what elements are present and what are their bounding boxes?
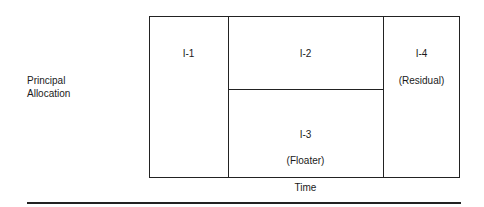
tranche-i3-note: (Floater) bbox=[228, 155, 383, 167]
x-axis-label: Time bbox=[228, 182, 383, 193]
allocation-box bbox=[149, 16, 460, 178]
divider-i2-i3 bbox=[228, 89, 384, 90]
tranche-i4-label: I-4 bbox=[383, 48, 460, 60]
y-axis-label-line-2: Allocation bbox=[27, 87, 70, 100]
tranche-i2-label: I-2 bbox=[228, 48, 383, 60]
divider-i2i3-i4 bbox=[383, 16, 384, 178]
divider-i1-i2 bbox=[228, 16, 229, 178]
y-axis-label: Principal Allocation bbox=[27, 74, 70, 100]
y-axis-label-line-1: Principal bbox=[27, 74, 70, 87]
tranche-i1-label: I-1 bbox=[149, 48, 228, 60]
bottom-rule bbox=[27, 202, 461, 204]
tranche-i3-label: I-3 bbox=[228, 129, 383, 141]
tranche-i4-note: (Residual) bbox=[383, 75, 460, 87]
